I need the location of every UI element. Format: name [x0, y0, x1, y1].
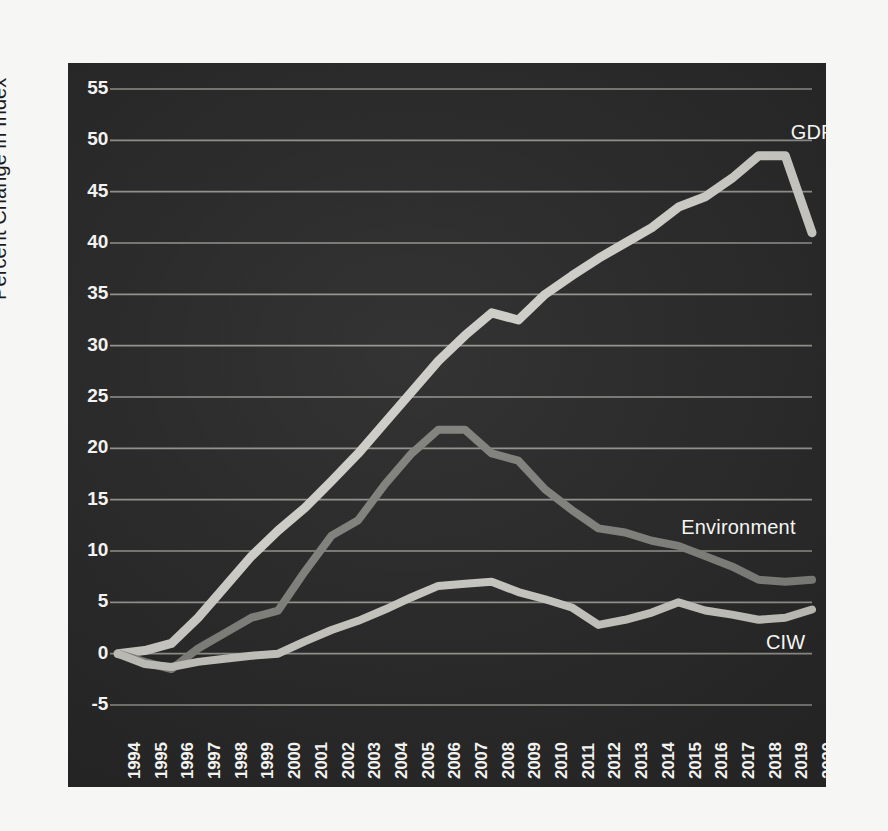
y-tick-label: 55 [70, 77, 108, 99]
series-line-environment [118, 430, 812, 669]
series-label-ciw: CIW [766, 631, 805, 654]
x-tick-label: 2015 [686, 742, 706, 779]
plot-canvas [68, 63, 826, 787]
y-tick-label: 50 [70, 128, 108, 150]
series-lines [118, 156, 812, 669]
series-label-environment: Environment [681, 516, 795, 539]
x-tick-label: 2018 [766, 742, 786, 779]
x-tick-label: 2000 [285, 742, 305, 779]
x-tick-label: 2002 [339, 742, 359, 779]
x-tick-label: 1994 [125, 742, 145, 779]
plot-panel: 5550454035302520151050-5 199419951996199… [68, 63, 826, 787]
y-tick-label: 20 [70, 436, 108, 458]
x-tick-label: 1995 [152, 742, 172, 779]
x-tick-label: 2009 [525, 742, 545, 779]
x-tick-label: 2013 [632, 742, 652, 779]
series-line-gdp [118, 156, 812, 654]
x-tick-label: 1999 [258, 742, 278, 779]
y-tick-label: 45 [70, 180, 108, 202]
y-tick-label: 0 [70, 642, 108, 664]
y-tick-label: 15 [70, 488, 108, 510]
y-tick-label: 25 [70, 385, 108, 407]
x-tick-label: 2005 [419, 742, 439, 779]
x-tick-label: 2019 [792, 742, 812, 779]
y-tick-label: 30 [70, 334, 108, 356]
x-tick-label: 2006 [445, 742, 465, 779]
x-tick-label: 1997 [205, 742, 225, 779]
x-tick-label: 2010 [552, 742, 572, 779]
y-tick-label: 10 [70, 539, 108, 561]
series-label-gdp: GDP [791, 121, 826, 144]
x-tick-label: 2017 [739, 742, 759, 779]
x-tick-label: 2001 [312, 742, 332, 779]
y-tick-label: 40 [70, 231, 108, 253]
x-tick-label: 2020 [819, 742, 826, 779]
x-tick-label: 2004 [392, 742, 412, 779]
x-tick-label: 2014 [659, 742, 679, 779]
x-tick-label: 2012 [605, 742, 625, 779]
x-tick-label: 2011 [579, 743, 599, 779]
y-tick-label: -5 [70, 693, 108, 715]
y-tick-label: 35 [70, 282, 108, 304]
x-tick-label: 1996 [178, 742, 198, 779]
x-tick-label: 2008 [499, 742, 519, 779]
chart-figure: 5550454035302520151050-5 199419951996199… [0, 0, 888, 831]
y-axis-title: Percent Change in Index [0, 78, 11, 300]
x-tick-label: 2007 [472, 742, 492, 779]
x-tick-label: 2003 [365, 742, 385, 779]
y-tick-label: 5 [70, 590, 108, 612]
x-tick-label: 2016 [712, 742, 732, 779]
x-tick-label: 1998 [232, 742, 252, 779]
